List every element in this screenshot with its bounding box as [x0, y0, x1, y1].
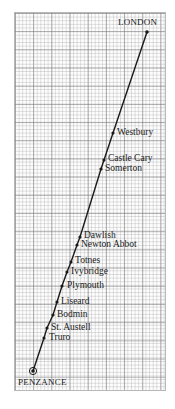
station-point-london — [145, 30, 149, 34]
station-label-ivybridge: Ivybridge — [71, 267, 108, 277]
station-point-westbury — [111, 131, 114, 134]
station-point-bodmin — [51, 313, 54, 316]
station-label-plymouth: Plymouth — [67, 281, 104, 291]
station-point-truro — [42, 336, 45, 339]
station-label-newton-abbot: Newton Abbot — [81, 240, 137, 250]
station-point-newton-abbot — [75, 243, 78, 246]
station-label-somerton: Somerton — [105, 164, 142, 174]
route-diagram: LONDONWestburyCastle CarySomertonDawlish… — [0, 0, 175, 409]
station-point-castle-cary — [102, 158, 105, 161]
station-label-liseard: Liseard — [61, 297, 90, 307]
station-point-somerton — [99, 167, 102, 170]
station-point-plymouth — [60, 284, 63, 287]
station-label-bodmin: Bodmin — [57, 310, 88, 320]
station-point-totnes — [69, 260, 72, 263]
route-line — [33, 32, 147, 371]
station-label-london: LONDON — [118, 18, 157, 27]
station-label-totnes: Totnes — [75, 256, 100, 266]
station-point-ivybridge — [65, 270, 68, 273]
station-label-penzance: PENZANCE — [18, 378, 67, 387]
station-label-westbury: Westbury — [117, 128, 153, 138]
route-line-plot — [0, 0, 175, 409]
station-point-st-austell — [45, 326, 48, 329]
station-point-penzance — [31, 369, 35, 373]
station-label-truro: Truro — [49, 333, 70, 343]
station-point-liseard — [55, 300, 58, 303]
